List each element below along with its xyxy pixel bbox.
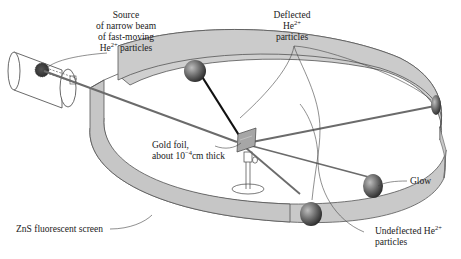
label-source: Source of narrow beam of fast-moving He2… <box>86 10 166 54</box>
label-undeflected-particles: Undeflected He2+ particles <box>375 226 442 248</box>
label-glow: Glow <box>410 176 431 187</box>
glow-spot-bottom <box>300 202 322 226</box>
undeflected-ray <box>252 146 380 180</box>
label-gold-foil: Gold foil, about 10−4cm thick <box>152 140 225 162</box>
glow-spot-right <box>431 95 441 115</box>
radioactive-sample <box>35 63 49 77</box>
zns-screen-front <box>90 74 446 223</box>
glow-spot-top <box>184 60 206 82</box>
alpha-beam <box>44 71 237 142</box>
label-zns-screen: ZnS fluorescent screen <box>16 224 103 235</box>
glow-spot-lower-right <box>363 174 383 198</box>
rutherford-diagram <box>0 0 461 259</box>
zns-screen-back <box>118 29 442 140</box>
gold-foil <box>237 128 256 152</box>
label-deflected-particles: Deflected He2+ particles <box>262 10 322 43</box>
deflected-rays <box>201 75 435 194</box>
